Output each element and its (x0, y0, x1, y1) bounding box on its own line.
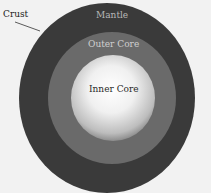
crust-leader-line (0, 0, 211, 193)
outer-core-label: Outer Core (88, 39, 139, 49)
mantle-label: Mantle (96, 10, 128, 20)
inner-core-label: Inner Core (89, 84, 139, 94)
crust-label: Crust (3, 9, 28, 19)
